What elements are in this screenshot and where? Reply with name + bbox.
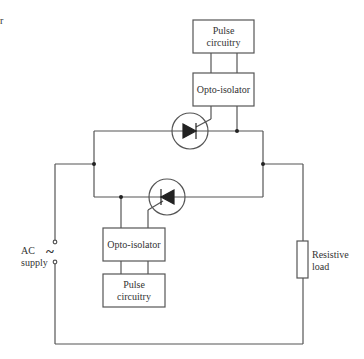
circuit-diagram: [0, 0, 364, 359]
ac-terminal-bottom-icon: [53, 260, 57, 264]
junction-dots: [92, 129, 265, 199]
load-line2: load: [312, 261, 349, 273]
ac-line2: supply: [21, 257, 48, 269]
opto-isolator-bottom-label: Opto-isolator: [103, 228, 165, 261]
opto-isolator-top-label: Opto-isolator: [193, 73, 254, 106]
pulse-bottom-line1: Pulse: [123, 279, 145, 291]
thyristor-lower-triangle-icon: [161, 190, 174, 204]
corner-text-fragment: r: [0, 15, 3, 27]
resistive-load-icon: [297, 241, 308, 278]
pulse-circuitry-top-label: Pulse circuitry: [193, 20, 254, 53]
ac-tilde-icon: ~: [46, 246, 54, 258]
thyristor-upper-triangle-icon: [183, 124, 196, 138]
resistive-load-label: Resistive load: [312, 249, 349, 273]
ac-line1: AC: [21, 245, 48, 257]
load-line1: Resistive: [312, 249, 349, 261]
pulse-bottom-line2: circuitry: [117, 291, 151, 303]
pulse-top-line1: Pulse: [213, 25, 235, 37]
ac-supply-label: AC supply: [21, 245, 48, 269]
pulse-circuitry-bottom-label: Pulse circuitry: [103, 274, 165, 307]
pulse-top-line2: circuitry: [207, 37, 241, 49]
